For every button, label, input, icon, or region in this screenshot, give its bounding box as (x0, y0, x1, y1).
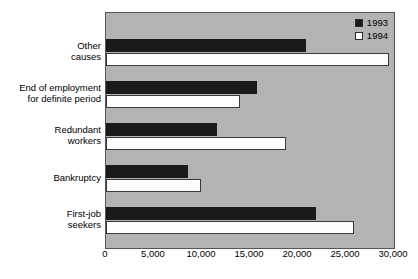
category-label-redundant-workers: Redundant workers (0, 124, 101, 146)
x-tick-label: 0 (102, 248, 107, 260)
legend-item-1994: 1994 (355, 30, 388, 41)
x-tick-label: 5,000 (141, 248, 165, 260)
legend-swatch-1994-icon (355, 32, 363, 40)
x-tick-label: 30,000 (378, 248, 407, 260)
bar-1994 (106, 53, 389, 66)
x-tick-label: 15,000 (234, 248, 263, 260)
bar-1994 (106, 137, 286, 150)
x-tick-label: 25,000 (330, 248, 359, 260)
bar-1993 (106, 165, 188, 178)
bar-1994 (106, 221, 354, 234)
plot-area: 1993 1994 (105, 12, 395, 249)
x-tick-label: 10,000 (186, 248, 215, 260)
bar-chart: Other causes End of employment for defin… (0, 0, 418, 279)
bar-1993 (106, 39, 306, 52)
category-label-bankruptcy: Bankruptcy (0, 172, 101, 183)
x-tick-label: 20,000 (282, 248, 311, 260)
category-label-first-job-seekers: First-job seekers (0, 208, 101, 230)
value-axis: 05,00010,00015,00020,00025,00030,000 (105, 248, 394, 264)
bar-1994 (106, 95, 240, 108)
bar-1993 (106, 81, 257, 94)
bar-1993 (106, 123, 217, 136)
bar-1993 (106, 207, 316, 220)
legend: 1993 1994 (355, 17, 388, 41)
legend-swatch-1993-icon (355, 19, 363, 27)
legend-item-1993: 1993 (355, 17, 388, 28)
bar-1994 (106, 179, 201, 192)
legend-label-1993: 1993 (367, 17, 388, 28)
category-label-other-causes: Other causes (0, 40, 101, 62)
category-axis: Other causes End of employment for defin… (0, 12, 101, 247)
legend-label-1994: 1994 (367, 30, 388, 41)
category-label-end-of-employment: End of employment for definite period (0, 82, 101, 104)
